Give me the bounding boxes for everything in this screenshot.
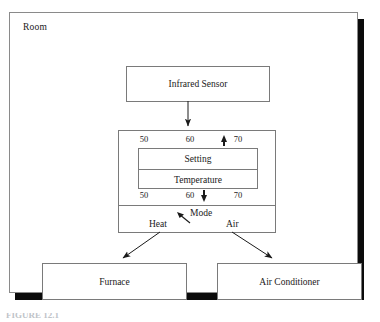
thermostat-display-section: 50 60 70 Setting Temperature 50 — [119, 131, 275, 206]
room-container: Room Infrared Sensor 50 60 70 Setting — [9, 12, 358, 293]
temperature-readout-row: Temperature — [139, 170, 257, 190]
furnace-label: Furnace — [99, 277, 130, 287]
temperature-scale-tick-60: 60 — [181, 190, 199, 200]
mode-label: Mode — [190, 208, 212, 218]
thermostat-mode-section: Mode Heat Air — [119, 206, 275, 232]
figure-caption-strip: FIGURE 12.1 — [6, 313, 226, 322]
temperature-scale: 50 60 70 — [119, 190, 275, 203]
mode-option-air[interactable]: Air — [226, 219, 239, 229]
setting-scale: 50 60 70 — [119, 134, 275, 147]
setting-scale-tick-60: 60 — [181, 134, 199, 144]
setting-scale-tick-50: 50 — [135, 134, 153, 144]
setting-arrow-stem — [223, 140, 224, 146]
figure-caption: FIGURE 12.1 — [6, 313, 59, 320]
thermostat-readout-box: Setting Temperature — [138, 148, 258, 189]
air-conditioner-label: Air Conditioner — [259, 277, 319, 287]
setting-readout-row: Setting — [139, 149, 257, 170]
infrared-sensor-box[interactable]: Infrared Sensor — [126, 66, 270, 102]
thermostat-box[interactable]: 50 60 70 Setting Temperature 50 — [118, 130, 276, 233]
mode-selector-arrow-icon[interactable] — [176, 212, 191, 224]
temperature-scale-tick-70: 70 — [229, 190, 247, 200]
setting-readout-label: Setting — [185, 154, 212, 164]
room-label: Room — [23, 22, 47, 32]
mode-option-heat[interactable]: Heat — [149, 219, 167, 229]
furnace-box[interactable]: Furnace — [42, 263, 187, 300]
figure-frame: Room Infrared Sensor 50 60 70 Setting — [9, 12, 358, 293]
setting-scale-tick-70: 70 — [229, 134, 247, 144]
temperature-readout-label: Temperature — [174, 175, 222, 185]
temperature-down-arrow-icon[interactable] — [201, 195, 207, 202]
infrared-sensor-label: Infrared Sensor — [169, 79, 228, 89]
air-conditioner-box[interactable]: Air Conditioner — [217, 263, 362, 300]
temperature-scale-tick-50: 50 — [135, 190, 153, 200]
